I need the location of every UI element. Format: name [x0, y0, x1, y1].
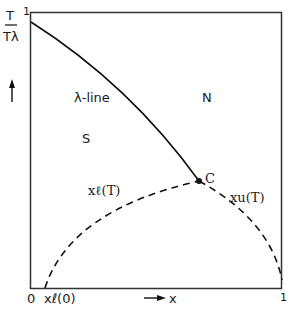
y-axis-top-tick: 1	[23, 6, 30, 17]
upper-branch-label: xu(T)	[230, 191, 265, 204]
lambda-line-label: λ-line	[74, 91, 110, 104]
x-l0-tick: xℓ(0)	[44, 292, 75, 305]
up-arrow-icon	[9, 79, 15, 88]
phase-diagram	[0, 0, 289, 313]
y-axis-label-numerator: T	[6, 9, 14, 22]
critical-point-label: C	[205, 172, 215, 185]
plot-frame	[31, 13, 282, 289]
critical-point-marker	[196, 178, 202, 184]
lower-branch-label: xℓ(T)	[88, 184, 120, 197]
right-arrow-icon	[157, 295, 166, 301]
lower-branch-curve	[45, 181, 199, 288]
x-axis-label: x	[169, 292, 177, 305]
y-axis-label-denominator: Tλ	[3, 30, 19, 43]
x-right-tick: 1	[280, 292, 287, 303]
region-label-superfluid: S	[82, 132, 90, 145]
region-label-normal: N	[202, 91, 212, 104]
x-origin-tick: 0	[27, 292, 35, 305]
lambda-line	[31, 22, 199, 181]
